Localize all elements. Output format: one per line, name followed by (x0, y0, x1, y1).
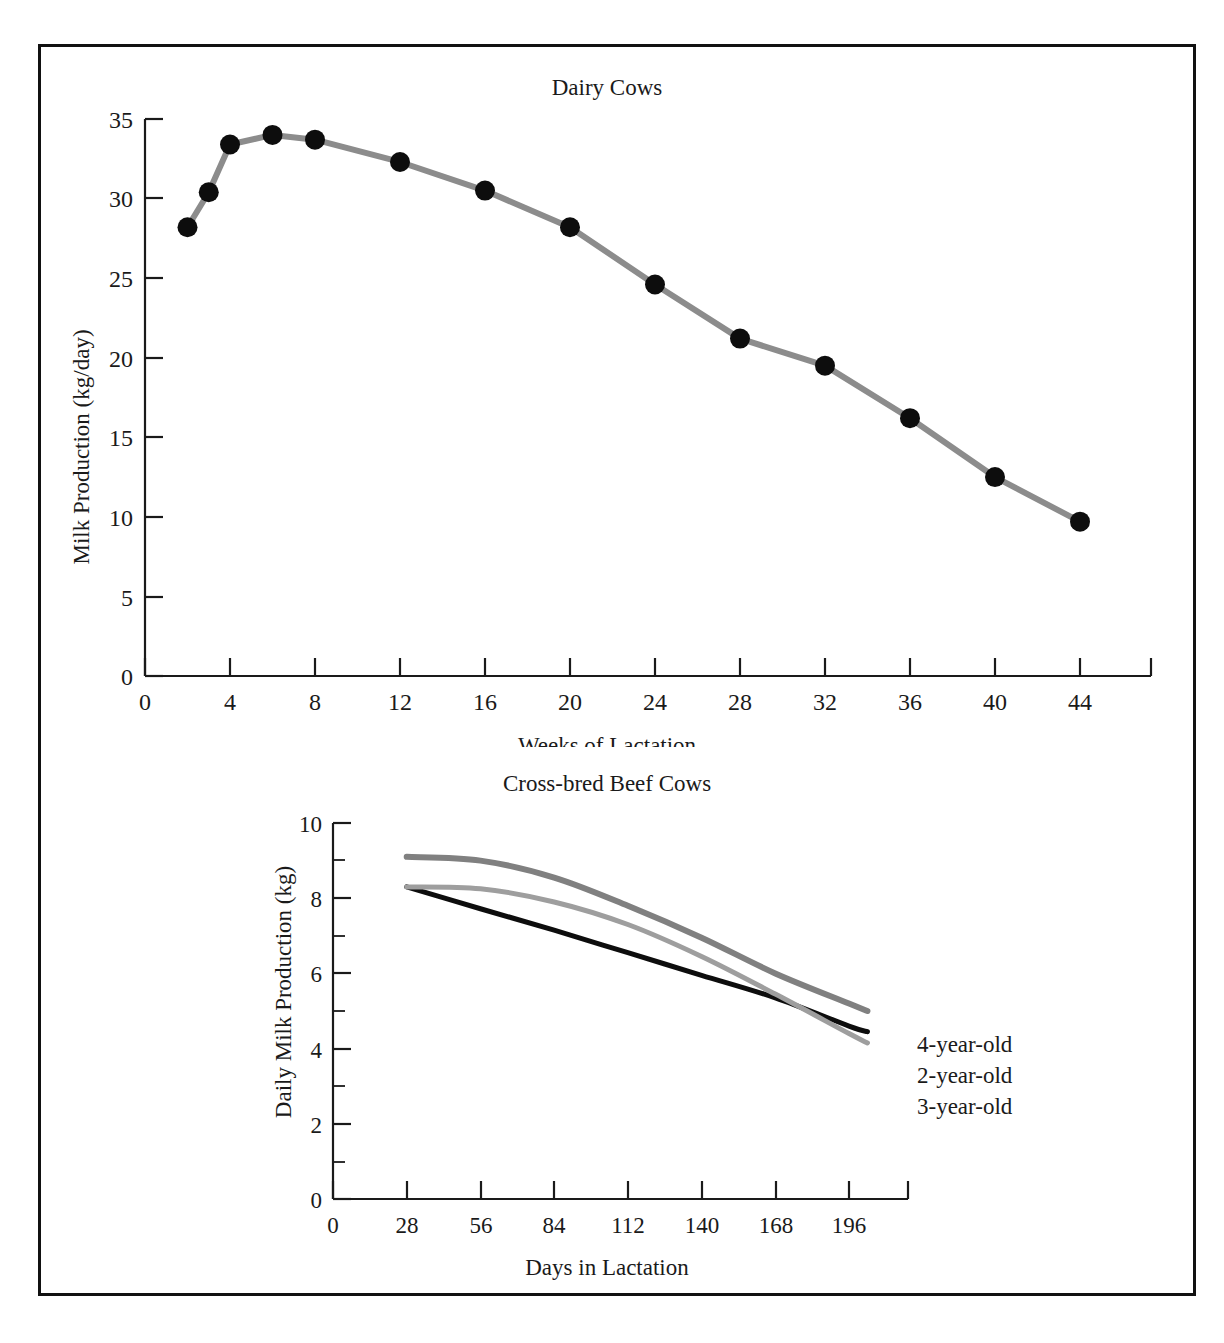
x-tick-label: 168 (759, 1213, 794, 1238)
x-tick-label: 140 (685, 1213, 720, 1238)
data-point (815, 356, 835, 376)
x-tick-label: 24 (643, 689, 667, 715)
x-tick-label: 28 (396, 1213, 419, 1238)
x-tick-label: 0 (139, 689, 151, 715)
y-tick-label: 4 (311, 1038, 323, 1063)
data-point (178, 217, 198, 237)
x-tick-label: 40 (983, 689, 1007, 715)
y-tick-label: 10 (109, 505, 133, 531)
data-line-milk-production (188, 135, 1081, 522)
y-tick-label: 20 (109, 346, 133, 372)
data-point (475, 181, 495, 201)
series-label-4-year-old: 4-year-old (917, 1032, 1013, 1057)
y-tick-label: 0 (121, 664, 133, 690)
x-tick-label: 20 (558, 689, 582, 715)
x-ticks-beef (333, 1181, 908, 1199)
y-ticks-dairy (145, 119, 163, 676)
data-curves-beef (407, 857, 868, 1043)
x-tick-label: 16 (473, 689, 497, 715)
y-axis-label-dairy-cows: Milk Production (kg/day) (69, 329, 94, 564)
x-tick-label: 28 (728, 689, 752, 715)
data-point (645, 275, 665, 295)
x-tick-labels-dairy: 0 4 8 12 16 20 24 28 32 36 40 44 (139, 689, 1092, 715)
x-tick-label: 32 (813, 689, 837, 715)
figure-border: Dairy Cows Milk Production (kg/day) (38, 44, 1196, 1296)
data-point (220, 134, 240, 154)
x-tick-label: 196 (832, 1213, 867, 1238)
x-ticks-dairy (145, 658, 1151, 676)
chart-title-beef-cows: Cross-bred Beef Cows (503, 771, 711, 796)
y-tick-label: 5 (121, 585, 133, 611)
x-tick-label: 4 (224, 689, 236, 715)
y-tick-label: 10 (299, 812, 322, 837)
x-tick-label: 0 (327, 1213, 339, 1238)
x-tick-label: 84 (543, 1213, 567, 1238)
x-axis-label-beef-cows: Days in Lactation (525, 1255, 689, 1280)
beef-cows-svg: Cross-bred Beef Cows Daily Milk Producti… (41, 747, 1193, 1293)
x-tick-label: 12 (388, 689, 412, 715)
data-point (985, 467, 1005, 487)
y-tick-label: 30 (109, 186, 133, 212)
y-ticks-beef (333, 823, 351, 1199)
x-tick-label: 44 (1068, 689, 1092, 715)
data-point (1070, 512, 1090, 532)
chart-dairy-cows: Dairy Cows Milk Production (kg/day) (41, 47, 1193, 747)
series-label-2-year-old: 2-year-old (917, 1063, 1013, 1088)
data-point (305, 130, 325, 150)
data-point (560, 217, 580, 237)
chart-title-dairy-cows: Dairy Cows (552, 75, 663, 100)
series-label-3-year-old: 3-year-old (917, 1094, 1013, 1119)
y-tick-label: 35 (109, 107, 133, 133)
x-tick-label: 112 (611, 1213, 645, 1238)
chart-cross-bred-beef-cows: Cross-bred Beef Cows Daily Milk Producti… (41, 747, 1193, 1293)
x-tick-label: 56 (470, 1213, 493, 1238)
y-tick-labels-beef: 10 8 6 4 2 0 (299, 812, 323, 1213)
x-tick-label: 8 (309, 689, 321, 715)
x-tick-labels-beef: 0 28 56 84 112 140 168 196 (327, 1213, 866, 1238)
y-axis-label-beef-cows: Daily Milk Production (kg) (271, 866, 296, 1118)
figure-page: Dairy Cows Milk Production (kg/day) (0, 0, 1224, 1343)
y-tick-label: 6 (311, 962, 323, 987)
dairy-cows-svg: Dairy Cows Milk Production (kg/day) (41, 47, 1193, 747)
data-curve-4-year-old (407, 857, 868, 1011)
data-points-milk-production (178, 125, 1091, 532)
y-tick-label: 15 (109, 425, 133, 451)
data-point (730, 329, 750, 349)
y-tick-label: 25 (109, 266, 133, 292)
y-tick-label: 2 (311, 1113, 323, 1138)
x-tick-label: 36 (898, 689, 922, 715)
data-point (390, 152, 410, 172)
y-tick-label: 8 (311, 887, 323, 912)
x-axis-label-dairy-cows: Weeks of Lactation (518, 733, 697, 747)
data-point (900, 408, 920, 428)
data-point (263, 125, 283, 145)
data-point (199, 182, 219, 202)
y-tick-labels-dairy: 35 30 25 20 15 10 5 0 (109, 107, 133, 690)
y-tick-label: 0 (311, 1188, 323, 1213)
